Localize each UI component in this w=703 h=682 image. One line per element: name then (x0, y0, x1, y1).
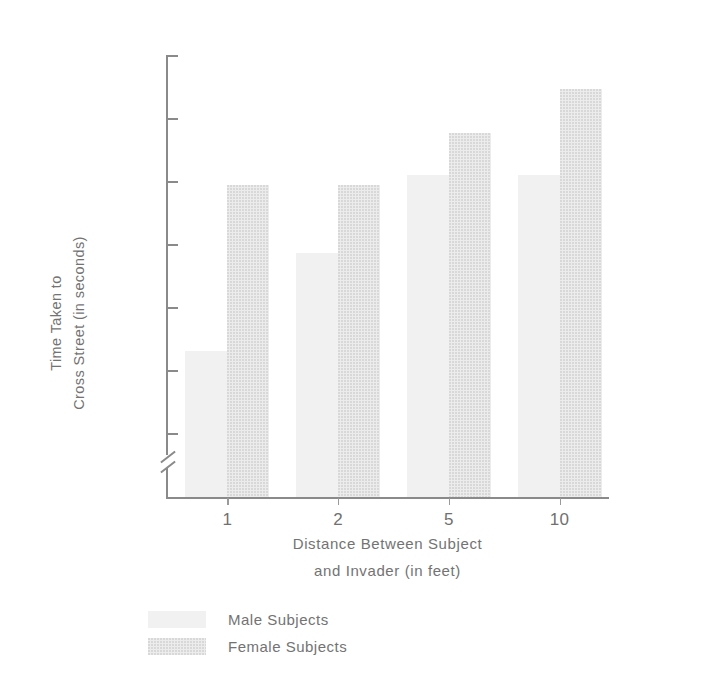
bar-female-5 (449, 133, 491, 497)
y-axis-line-lower-segment (166, 468, 168, 498)
bar-female-10 (560, 89, 602, 497)
legend-swatch-female-icon (148, 638, 206, 655)
x-tick-label: 10 (530, 510, 590, 530)
x-tick-label: 2 (308, 510, 368, 530)
axis-break-mark-lower (160, 461, 175, 474)
y-axis-line (166, 55, 168, 455)
y-tick-mark (167, 181, 178, 183)
y-axis-title: Time Taken to Cross Street (in seconds) (45, 163, 91, 483)
y-tick-mark (167, 244, 178, 246)
bar-chart-figure: Time Taken to Cross Street (in seconds) … (0, 0, 703, 682)
legend-label-female: Female Subjects (228, 638, 347, 655)
x-tick-mark (338, 498, 339, 505)
y-axis-title-line-2: Cross Street (in seconds) (68, 163, 91, 483)
legend-item-male: Male Subjects (148, 606, 488, 633)
x-axis-line (166, 497, 609, 499)
x-tick-mark (449, 498, 450, 505)
y-tick-mark (167, 118, 178, 120)
x-tick-mark (227, 498, 228, 505)
x-axis-title-line-2: and Invader (in feet) (166, 557, 609, 584)
y-tick-mark (167, 55, 178, 57)
x-tick-label: 1 (197, 510, 257, 530)
bar-male-2 (296, 253, 338, 497)
y-tick-mark (167, 433, 178, 435)
plot-area: 10.09.59.08.58.07.57.0 12510 (166, 48, 609, 498)
bar-male-5 (407, 175, 449, 497)
y-axis-title-line-1: Time Taken to (45, 163, 68, 483)
legend-item-female: Female Subjects (148, 633, 488, 660)
y-tick-mark (167, 307, 178, 309)
bar-male-1 (185, 351, 227, 497)
bar-female-1 (227, 185, 269, 497)
bar-female-2 (338, 185, 380, 497)
x-axis-title: Distance Between Subject and Invader (in… (166, 530, 609, 584)
legend-label-male: Male Subjects (228, 611, 329, 628)
bar-male-10 (518, 175, 560, 497)
x-axis-title-line-1: Distance Between Subject (166, 530, 609, 557)
x-tick-label: 5 (419, 510, 479, 530)
x-tick-mark (560, 498, 561, 505)
chart-legend: Male Subjects Female Subjects (148, 606, 488, 660)
legend-swatch-male-icon (148, 611, 206, 628)
y-tick-mark (167, 370, 178, 372)
